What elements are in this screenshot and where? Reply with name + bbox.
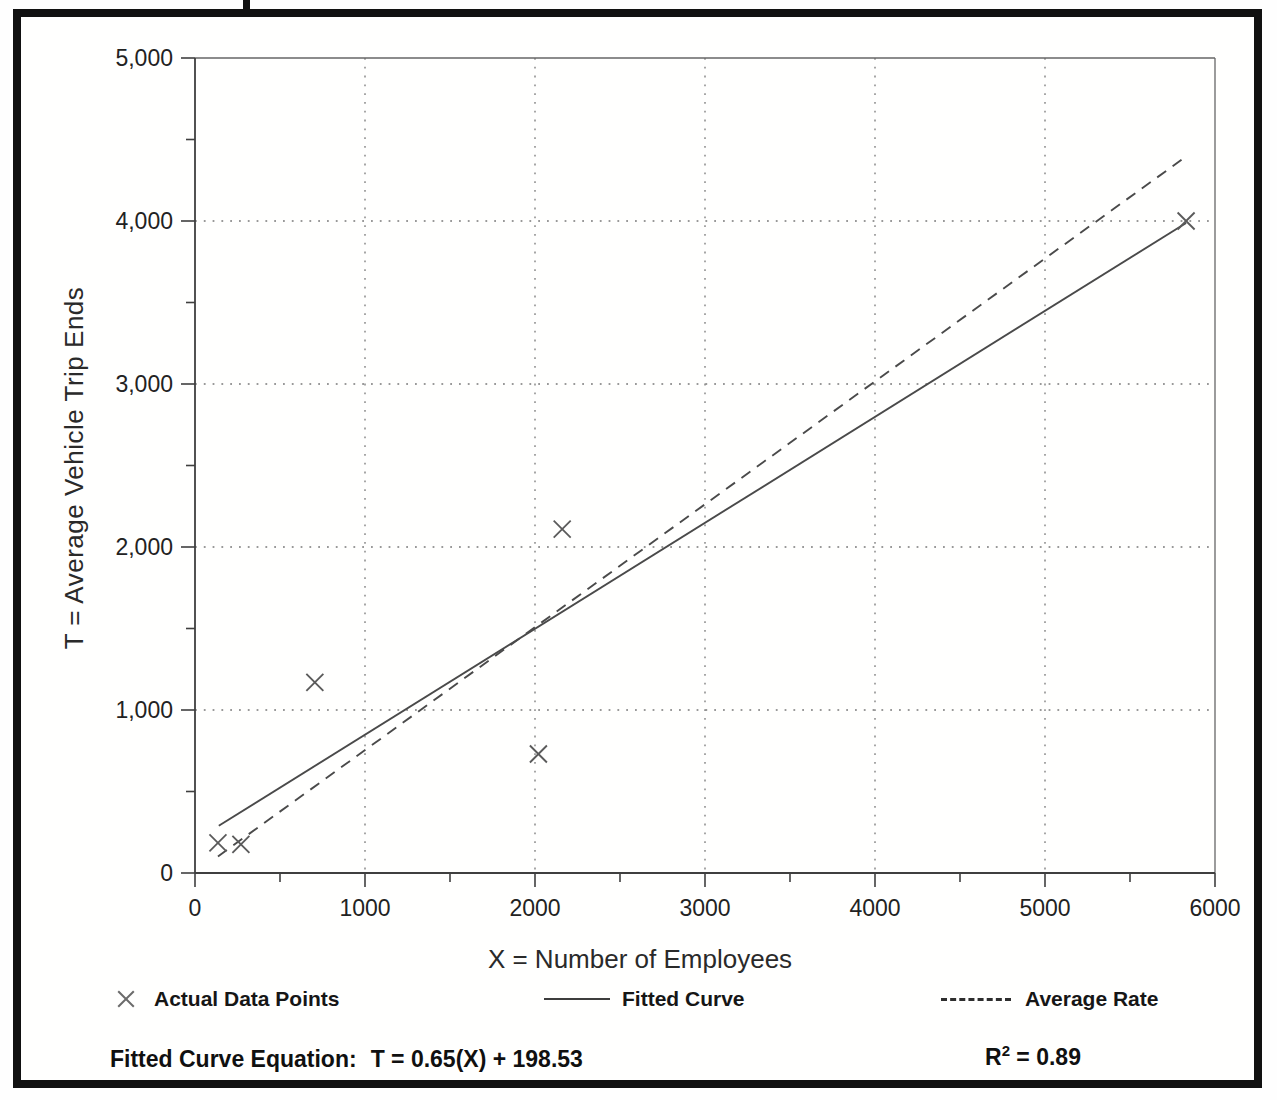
x-tick-label: 2000 — [509, 895, 560, 921]
legend-item-average-rate: Average Rate — [941, 984, 1158, 1014]
y-tick-label: 2,000 — [115, 534, 173, 560]
r2-rest: = 0.89 — [1010, 1044, 1081, 1070]
scanned-chart-page: 010002000300040005000600001,0002,0003,00… — [0, 0, 1277, 1100]
solid-line-icon — [544, 998, 610, 1000]
r-squared-value: R2 = 0.89 — [985, 1042, 1081, 1071]
average-rate-line — [218, 156, 1187, 857]
fitted-curve-line — [219, 223, 1186, 826]
trip-generation-scatter-plot: 010002000300040005000600001,0002,0003,00… — [0, 0, 1277, 1100]
y-tick-label: 4,000 — [115, 208, 173, 234]
fitted-curve-equation: Fitted Curve Equation:T = 0.65(X) + 198.… — [110, 1046, 583, 1073]
x-tick-label: 6000 — [1189, 895, 1240, 921]
x-tick-label: 4000 — [849, 895, 900, 921]
y-tick-label: 0 — [160, 860, 173, 886]
y-tick-label: 1,000 — [115, 697, 173, 723]
legend-label: Fitted Curve — [622, 987, 745, 1011]
r2-exponent: 2 — [1002, 1042, 1010, 1059]
y-tick-label: 3,000 — [115, 371, 173, 397]
legend-label: Actual Data Points — [154, 987, 340, 1011]
y-axis-title: T = Average Vehicle Trip Ends — [59, 287, 90, 650]
legend-label: Average Rate — [1025, 987, 1158, 1011]
r2-base: R — [985, 1044, 1002, 1070]
x-tick-label: 0 — [189, 895, 202, 921]
y-tick-label: 5,000 — [115, 45, 173, 71]
legend-item-fitted-curve: Fitted Curve — [544, 984, 745, 1014]
dashed-line-icon — [941, 998, 1011, 1001]
x-tick-label: 1000 — [339, 895, 390, 921]
chart-legend: Actual Data Points Fitted Curve Average … — [0, 984, 1277, 1018]
x-tick-label: 5000 — [1019, 895, 1070, 921]
legend-item-actual-data-points: Actual Data Points — [114, 984, 340, 1014]
x-axis-title: X = Number of Employees — [488, 944, 792, 975]
x-marker-icon — [114, 987, 138, 1011]
equation-label: Fitted Curve Equation: — [110, 1046, 357, 1072]
equation-value: T = 0.65(X) + 198.53 — [371, 1046, 583, 1072]
x-tick-label: 3000 — [679, 895, 730, 921]
